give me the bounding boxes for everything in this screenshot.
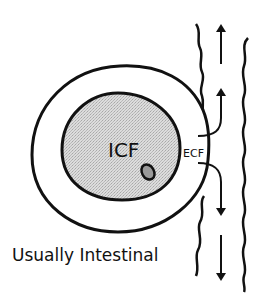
diagram-canvas: ICF ECF Usually Intestinal — [0, 0, 269, 295]
vessel-wall-right — [243, 38, 248, 292]
ecf-label: ECF — [183, 147, 204, 160]
caption-label: Usually Intestinal — [12, 245, 158, 265]
icf-label: ICF — [108, 138, 139, 162]
